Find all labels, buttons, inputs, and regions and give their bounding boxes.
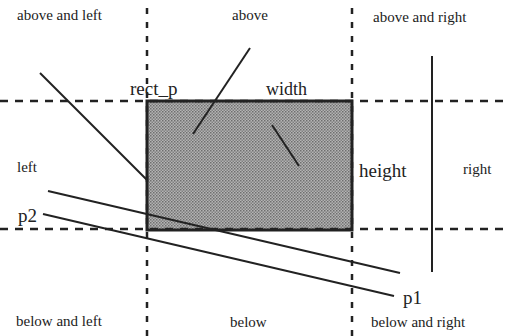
clip-rectangle <box>147 101 352 230</box>
region-label-above-right: above and right <box>373 10 466 25</box>
label-p2: p2 <box>18 206 37 225</box>
label-p1: p1 <box>403 288 422 307</box>
clipping-diagram: above and left above above and right lef… <box>0 0 508 336</box>
label-rect-p: rect_p <box>130 79 177 98</box>
region-label-below: below <box>230 315 267 330</box>
region-label-left: left <box>17 160 37 175</box>
region-label-below-left: below and left <box>16 314 102 329</box>
region-label-above: above <box>232 8 268 23</box>
label-height: height <box>359 161 407 180</box>
diagram-canvas <box>0 0 508 336</box>
region-label-below-right: below and right <box>371 315 465 330</box>
region-label-right: right <box>463 162 491 177</box>
region-label-above-left: above and left <box>17 8 102 23</box>
label-width: width <box>266 80 307 98</box>
